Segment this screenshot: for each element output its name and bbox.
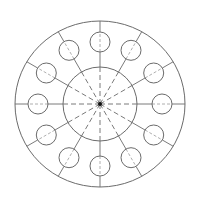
- spoke-segment-solid: [58, 166, 64, 176]
- spoke-segment-solid: [74, 59, 82, 72]
- spoke-hole-centerline: [145, 130, 162, 140]
- spoke-inner-dashed: [82, 104, 101, 136]
- spoke-hole-centerline: [126, 42, 136, 59]
- spoke-inner-dashed: [100, 72, 119, 104]
- spoke-hole-centerline: [64, 149, 74, 166]
- spoke-inner-dashed: [68, 86, 100, 105]
- spoke-segment-solid: [132, 78, 145, 86]
- spoke-segment-solid: [162, 140, 173, 146]
- spoke-hole-centerline: [64, 42, 74, 59]
- spoke-hole-centerline: [38, 130, 55, 140]
- center-dot: [98, 102, 102, 106]
- spoke-inner-dashed: [82, 72, 101, 104]
- spoke-segment-solid: [27, 140, 38, 146]
- spoke-segment-solid: [136, 32, 142, 42]
- spoke-inner-dashed: [68, 104, 100, 123]
- spoke-segment-solid: [119, 59, 127, 72]
- spoke-hole-centerline: [145, 68, 162, 78]
- spoke-inner-dashed: [100, 104, 132, 123]
- radial-diagram: [0, 0, 197, 197]
- spoke-segment-solid: [136, 166, 142, 176]
- spoke-segment-solid: [74, 136, 82, 149]
- center-point: [98, 102, 102, 106]
- spoke-segment-solid: [55, 78, 68, 86]
- spoke-segment-solid: [162, 62, 173, 68]
- spoke-hole-centerline: [38, 68, 55, 78]
- spoke-segment-solid: [55, 123, 68, 131]
- spoke-segment-solid: [58, 32, 64, 42]
- spoke-segment-solid: [27, 62, 38, 68]
- spoke-hole-centerline: [126, 149, 136, 166]
- spoke-segment-solid: [119, 136, 127, 149]
- spoke-inner-dashed: [100, 104, 119, 136]
- spoke-inner-dashed: [100, 86, 132, 105]
- spoke-segment-solid: [132, 123, 145, 131]
